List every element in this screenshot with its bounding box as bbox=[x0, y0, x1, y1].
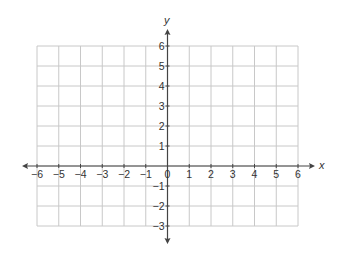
x-tick-label: 4 bbox=[252, 168, 258, 180]
x-tick-label: −3 bbox=[96, 168, 108, 180]
y-tick-label: 2 bbox=[159, 120, 165, 132]
x-tick-label: −1 bbox=[140, 168, 152, 180]
y-tick-labels: 654321−1−2−3 bbox=[153, 40, 165, 232]
y-tick-label: 4 bbox=[159, 80, 165, 92]
y-axis-label: y bbox=[163, 14, 171, 26]
x-tick-label: −2 bbox=[118, 168, 130, 180]
y-tick-label: 1 bbox=[159, 140, 165, 152]
x-tick-label: 2 bbox=[208, 168, 214, 180]
x-tick-label: −6 bbox=[31, 168, 43, 180]
axes bbox=[22, 29, 315, 244]
x-tick-label: 5 bbox=[273, 168, 279, 180]
x-tick-label: 3 bbox=[230, 168, 236, 180]
x-tick-label: −5 bbox=[53, 168, 65, 180]
x-axis-label: x bbox=[318, 159, 325, 171]
x-tick-labels: −6−5−4−3−2−10123456 bbox=[31, 168, 301, 180]
x-tick-label: 0 bbox=[165, 168, 171, 180]
y-tick-label: −1 bbox=[153, 180, 165, 192]
y-tick-label: 6 bbox=[159, 40, 165, 52]
coordinate-plane: −6−5−4−3−2−10123456 654321−1−2−3 x y bbox=[0, 0, 345, 254]
y-tick-label: 3 bbox=[159, 100, 165, 112]
x-tick-label: 6 bbox=[295, 168, 301, 180]
y-tick-label: 5 bbox=[159, 60, 165, 72]
y-tick-label: −3 bbox=[153, 220, 165, 232]
x-tick-label: −4 bbox=[75, 168, 87, 180]
y-tick-label: −2 bbox=[153, 200, 165, 212]
x-tick-label: 1 bbox=[186, 168, 192, 180]
